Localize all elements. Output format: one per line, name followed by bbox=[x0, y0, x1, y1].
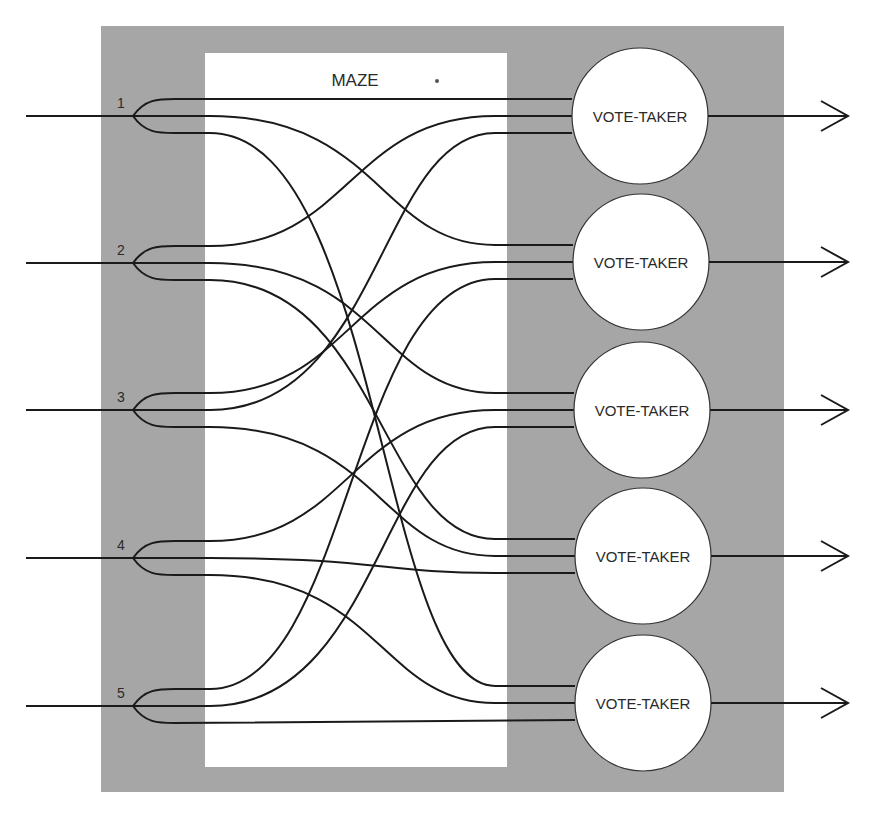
vote-taker-label: VOTE-TAKER bbox=[596, 695, 691, 712]
vote-taker-label: VOTE-TAKER bbox=[595, 402, 690, 419]
diagram-canvas: MAZE 12345 VOTE-TAKERVOTE-TAKERVOTE-TAKE… bbox=[0, 0, 885, 820]
vote-taker-label: VOTE-TAKER bbox=[593, 108, 688, 125]
input-label-2: 2 bbox=[117, 242, 125, 258]
input-label-4: 4 bbox=[117, 537, 125, 553]
vote-taker-maze-diagram: MAZE 12345 VOTE-TAKERVOTE-TAKERVOTE-TAKE… bbox=[0, 0, 885, 820]
speck bbox=[435, 79, 439, 83]
maze-label: MAZE bbox=[331, 71, 378, 90]
vote-taker-label: VOTE-TAKER bbox=[594, 254, 689, 271]
input-label-3: 3 bbox=[117, 389, 125, 405]
maze-region bbox=[205, 53, 507, 767]
vote-taker-label: VOTE-TAKER bbox=[596, 548, 691, 565]
input-label-1: 1 bbox=[117, 95, 125, 111]
input-label-5: 5 bbox=[117, 685, 125, 701]
